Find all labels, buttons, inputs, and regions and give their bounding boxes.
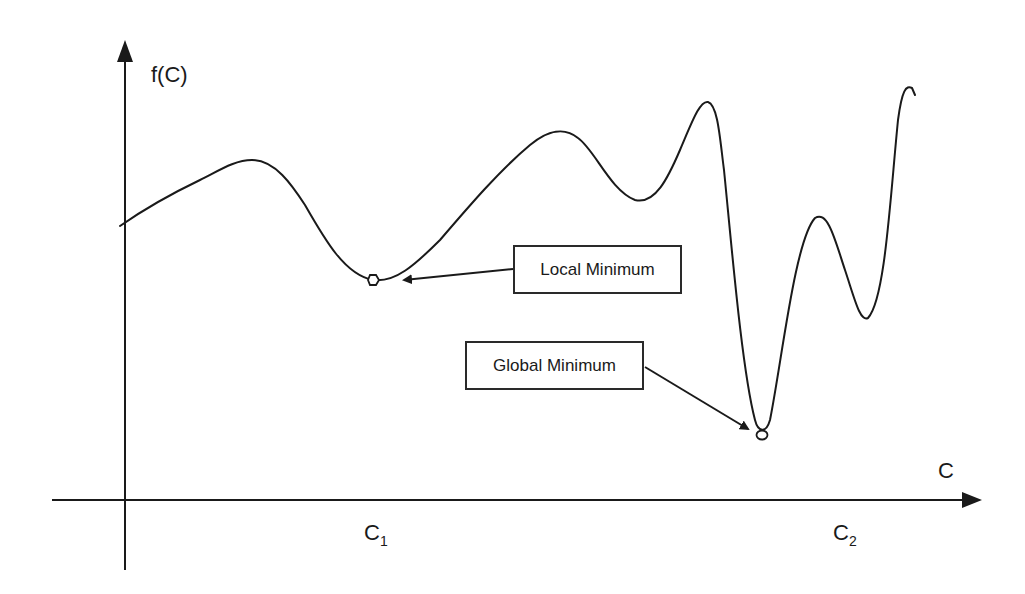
x-axis-arrowhead-icon	[962, 492, 982, 508]
global-minimum-arrow	[645, 367, 748, 429]
y-axis	[117, 40, 133, 570]
diagram-canvas	[0, 0, 1025, 594]
global-minimum-marker	[757, 431, 768, 440]
tick-label-c1-subscript: 1	[380, 533, 388, 549]
local-minimum-callout: Local Minimum	[513, 245, 682, 294]
tick-label-c2-base: C	[833, 520, 849, 545]
tick-label-c2: C2	[833, 520, 857, 549]
y-axis-label: f(C)	[151, 62, 188, 88]
local-minimum-arrow	[404, 269, 513, 280]
global-minimum-callout: Global Minimum	[465, 341, 644, 390]
tick-label-c2-subscript: 2	[849, 533, 857, 549]
global-minimum-label: Global Minimum	[493, 356, 616, 376]
tick-label-c1: C1	[364, 520, 388, 549]
x-axis	[52, 492, 982, 508]
tick-label-c1-base: C	[364, 520, 380, 545]
x-axis-label: C	[938, 458, 954, 484]
local-minimum-label: Local Minimum	[540, 260, 654, 280]
y-axis-arrowhead-icon	[117, 40, 133, 62]
local-minimum-marker	[368, 275, 379, 285]
